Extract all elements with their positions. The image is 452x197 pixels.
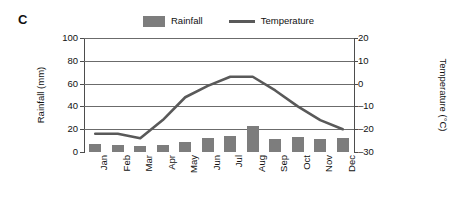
right-axis-tick-label: 20 (358, 33, 369, 43)
x-axis-tick-label: Jan (99, 155, 109, 170)
right-axis-line (354, 38, 355, 153)
right-tickmark (354, 106, 358, 107)
x-axis-tick-label: Jul (234, 155, 244, 167)
x-axis-tick-label: Mar (144, 155, 154, 171)
right-axis-title-text: Temperature (°C) (439, 59, 450, 132)
right-axis-tick-label: 10 (358, 56, 369, 66)
x-axis-tick-label: May (189, 155, 199, 173)
left-axis-tick-label: 100 (62, 33, 78, 43)
right-tickmark (354, 129, 358, 130)
temperature-polyline (95, 77, 343, 139)
left-axis-tick-label: 80 (67, 56, 78, 66)
right-axis-tick-label: 0 (358, 79, 363, 89)
right-tickmark (354, 152, 358, 153)
legend-item-rainfall: Rainfall (143, 16, 203, 27)
temperature-line (84, 38, 354, 152)
panel-label: C (18, 13, 28, 26)
x-axis-tick-label: Nov (324, 155, 334, 172)
right-axis-title: Temperature (°C) (385, 35, 452, 155)
x-axis-tick-label: Aug (257, 155, 267, 172)
x-axis-tick-label: Sep (279, 155, 289, 172)
x-axis-tick-label: Dec (347, 155, 357, 172)
left-axis-tick-label: 60 (67, 79, 78, 89)
right-tickmark (354, 84, 358, 85)
right-tickmark (354, 61, 358, 62)
x-axis-tick-label: Oct (302, 155, 312, 170)
chart-legend: Rainfall Temperature (143, 14, 314, 28)
x-axis-tick-label: Jun (212, 155, 222, 170)
left-axis-tick-label: 40 (67, 101, 78, 111)
right-axis-tick-label: –20 (358, 124, 374, 134)
legend-label-rainfall: Rainfall (171, 16, 203, 26)
plot-area (84, 38, 354, 152)
x-axis-tick-label: Apr (167, 155, 177, 170)
left-axis-tick-labels: 020406080100 (40, 0, 78, 197)
left-axis-tick-label: 0 (73, 147, 78, 157)
x-axis-tick: Dec (347, 155, 387, 169)
legend-label-temperature: Temperature (261, 16, 314, 26)
legend-item-temperature: Temperature (229, 16, 314, 26)
x-axis-tick-labels: JanFebMarAprMayJunJulAugSepOctNovDec (84, 155, 354, 197)
temperature-swatch-icon (229, 20, 255, 23)
right-axis-tick-label: –10 (358, 101, 374, 111)
right-tickmark (354, 38, 358, 39)
left-axis-tick-label: 20 (67, 124, 78, 134)
rainfall-swatch-icon (143, 16, 165, 27)
left-tickmark (80, 152, 84, 153)
x-axis-tick-label: Feb (122, 155, 132, 171)
